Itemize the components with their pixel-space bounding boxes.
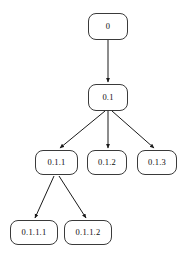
tree-node-label: 0: [106, 22, 110, 31]
tree-node[interactable]: 0.1.1.1: [10, 220, 58, 245]
tree-node-label: 0.1.2: [98, 158, 116, 167]
tree-node-label: 0.1.1.2: [76, 228, 101, 237]
tree-node[interactable]: 0: [88, 13, 128, 40]
tree-node[interactable]: 0.1: [88, 84, 128, 111]
tree-node-label: 0.1.1.1: [22, 228, 47, 237]
tree-node-label: 0.1.1: [48, 158, 66, 167]
tree-diagram: 00.10.1.10.1.20.1.30.1.1.10.1.1.2: [0, 0, 187, 257]
tree-node[interactable]: 0.1.3: [137, 150, 177, 175]
tree-edge: [60, 111, 105, 148]
tree-node[interactable]: 0.1.1: [35, 150, 78, 175]
tree-node-label: 0.1.3: [148, 158, 166, 167]
tree-edge: [112, 111, 154, 148]
tree-node[interactable]: 0.1.2: [87, 150, 127, 175]
tree-node[interactable]: 0.1.1.2: [64, 220, 112, 245]
tree-edge: [59, 176, 86, 218]
tree-node-label: 0.1: [102, 93, 113, 102]
tree-edge: [35, 176, 54, 218]
